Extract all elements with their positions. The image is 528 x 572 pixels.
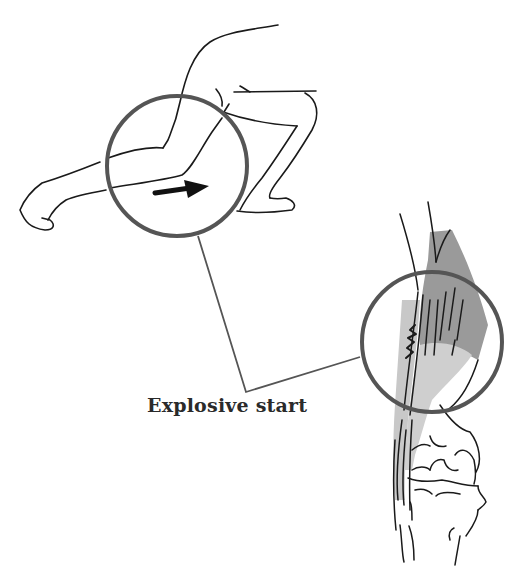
explosive-start-diagram: Explosive start	[0, 0, 528, 572]
runner-figure	[20, 25, 317, 230]
illustration	[0, 0, 528, 572]
callout-connector-line	[198, 236, 360, 392]
knee-anatomy	[393, 202, 488, 565]
figure-caption: Explosive start	[147, 394, 307, 416]
right-arrow-icon	[155, 180, 209, 198]
